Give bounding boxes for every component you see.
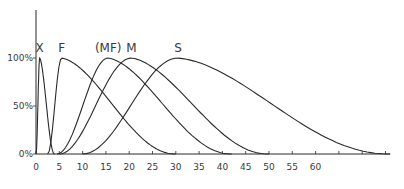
chart: 0%50%100%051015202530354045505560 XF(MF)…	[0, 0, 404, 189]
y-tick-label: 100%	[7, 53, 33, 63]
x-tick-label: 45	[240, 162, 251, 172]
axes: 0%50%100%051015202530354045505560	[7, 10, 390, 172]
curve-f	[48, 58, 176, 154]
x-tick-label: 40	[217, 162, 229, 172]
y-tick-label: 50%	[13, 101, 33, 111]
x-tick-label: 5	[56, 162, 62, 172]
x-tick-label: 15	[100, 162, 111, 172]
x-tick-label: 30	[170, 162, 182, 172]
series-labels: XF(MF)MS	[36, 41, 182, 55]
curve-s	[83, 58, 391, 154]
x-tick-label: 55	[287, 162, 298, 172]
series-label-mf: (MF)	[95, 41, 122, 55]
x-tick-label: 10	[77, 162, 89, 172]
y-tick-label: 0%	[19, 149, 34, 159]
series-label-x: X	[36, 41, 44, 55]
x-tick-label: 25	[147, 162, 158, 172]
x-tick-label: 20	[123, 162, 135, 172]
series-label-f: F	[58, 41, 65, 55]
x-tick-label: 0	[33, 162, 39, 172]
x-tick-label: 35	[193, 162, 204, 172]
x-tick-label: 60	[310, 162, 322, 172]
series-label-s: S	[174, 41, 182, 55]
x-tick-label: 50	[263, 162, 275, 172]
series-label-m: M	[126, 41, 136, 55]
curves	[36, 58, 390, 154]
curve-x	[36, 58, 55, 154]
